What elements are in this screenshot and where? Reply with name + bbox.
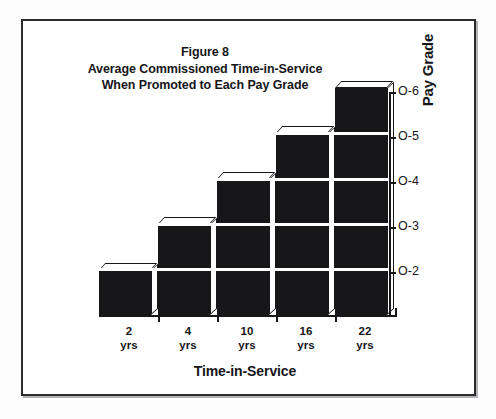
chart-title-line-1: Figure 8 [30, 44, 380, 61]
gridline-o-4 [99, 178, 391, 181]
bar-front-face [99, 270, 151, 315]
y-tick-label-o-5: O-5 [398, 129, 419, 143]
gridline-o-3 [99, 223, 391, 226]
x-axis-cap-left [99, 308, 101, 317]
x-tick-label-2-yrs: 2 yrs [100, 324, 158, 352]
y-axis-tick-o-3 [389, 227, 396, 229]
bar-side-face [269, 173, 276, 315]
x-tick-label-value: 4 [159, 324, 217, 338]
x-axis-tick-4 [335, 315, 337, 322]
x-tick-label-unit: yrs [159, 338, 217, 352]
bar-10-yrs[interactable] [217, 179, 269, 315]
plot-area [99, 88, 391, 315]
x-tick-label-22-yrs: 22 yrs [336, 324, 394, 352]
y-axis-tick-o-6 [389, 92, 396, 94]
y-axis-line [389, 92, 391, 317]
bar-side-face [328, 127, 335, 315]
bar-top-face [335, 81, 393, 88]
x-tick-label-unit: yrs [277, 338, 335, 352]
x-tick-label-value: 22 [336, 324, 394, 338]
x-tick-label-value: 16 [277, 324, 335, 338]
x-tick-label-16-yrs: 16 yrs [277, 324, 335, 352]
y-axis-tick-o-5 [389, 137, 396, 139]
gridline-o-5 [99, 132, 391, 135]
y-axis-tick-o-2 [389, 272, 396, 274]
y-tick-label-o-3: O-3 [398, 219, 419, 233]
y-tick-label-o-6: O-6 [398, 84, 419, 98]
x-tick-label-unit: yrs [100, 338, 158, 352]
bar-2-yrs[interactable] [99, 270, 151, 315]
bar-22-yrs[interactable] [335, 88, 387, 315]
x-tick-label-value: 2 [100, 324, 158, 338]
x-tick-label-10-yrs: 10 yrs [218, 324, 276, 352]
bar-front-face [217, 179, 269, 315]
bar-front-face [335, 88, 387, 315]
x-tick-label-value: 10 [218, 324, 276, 338]
y-tick-label-o-2: O-2 [398, 264, 419, 278]
x-axis-line [99, 315, 397, 317]
x-tick-label-4-yrs: 4 yrs [159, 324, 217, 352]
bar-side-face [210, 218, 217, 315]
y-axis-title: Pay Grade [419, 10, 436, 130]
x-axis-cap-right [395, 308, 397, 317]
x-axis-tick-3 [276, 315, 278, 322]
x-axis-tick-2 [217, 315, 219, 322]
chart-title-line-2: Average Commissioned Time-in-Service [30, 61, 380, 78]
x-axis-title: Time-in-Service [99, 363, 391, 379]
y-tick-label-o-4: O-4 [398, 174, 419, 188]
figure-container: Figure 8 Average Commissioned Time-in-Se… [0, 0, 496, 419]
y-axis-tick-o-4 [389, 182, 396, 184]
chart-title: Figure 8 Average Commissioned Time-in-Se… [30, 44, 380, 94]
x-tick-label-unit: yrs [336, 338, 394, 352]
x-tick-label-unit: yrs [218, 338, 276, 352]
x-axis-tick-1 [158, 315, 160, 322]
gridline-o-2 [99, 268, 391, 271]
